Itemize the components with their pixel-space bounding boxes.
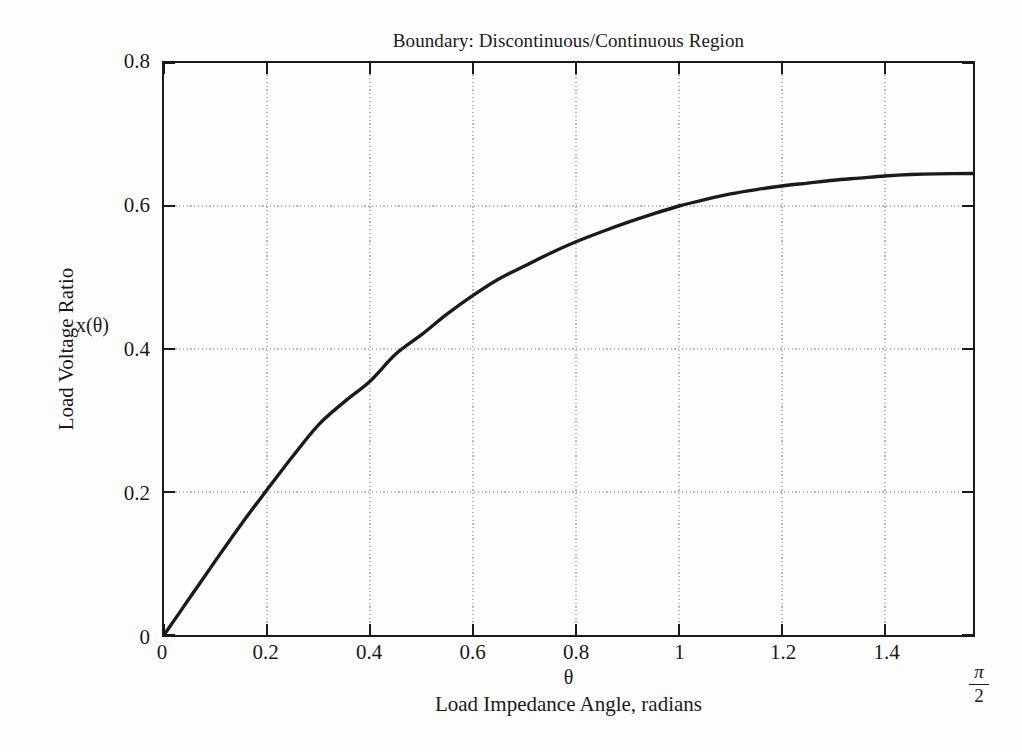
- x-tick-label: 1.2: [770, 640, 796, 665]
- x-tick-label: 1.4: [873, 640, 899, 665]
- x-axis-symbol: θ: [162, 666, 975, 689]
- x-tick-label: 0: [157, 640, 168, 665]
- y-tick-label: 0.4: [90, 337, 150, 362]
- chart-figure: Boundary: Discontinuous/Continuous Regio…: [0, 0, 1022, 752]
- y-tick-label: 0.2: [90, 481, 150, 506]
- y-tick-label: 0.6: [90, 193, 150, 218]
- x-tick-label: 0.8: [563, 640, 589, 665]
- x-tick-label: 0.6: [459, 640, 485, 665]
- plot-area: [162, 61, 975, 637]
- x-tick-label: 0.4: [356, 640, 382, 665]
- x-tick-label: 1: [674, 640, 685, 665]
- pi-denominator: 2: [957, 686, 1001, 707]
- x-axis-title: Load Impedance Angle, radians: [162, 692, 975, 717]
- x-axis-end-label: π 2: [957, 662, 1001, 707]
- x-tick-label: 0.2: [252, 640, 278, 665]
- pi-numerator: π: [957, 662, 1001, 683]
- chart-title: Boundary: Discontinuous/Continuous Regio…: [162, 30, 975, 52]
- series-line: [164, 173, 973, 635]
- y-tick-label: 0.8: [90, 49, 150, 74]
- y-tick-label: 0: [90, 625, 150, 650]
- y-axis-title: Load Voltage Ratio: [46, 61, 86, 637]
- data-curve: [164, 63, 973, 635]
- y-axis-tick-labels: 00.20.40.60.8: [88, 61, 150, 637]
